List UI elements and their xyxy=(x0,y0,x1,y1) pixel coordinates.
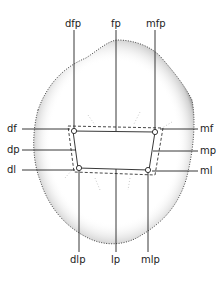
tooth-diagram xyxy=(0,0,224,285)
label-mf: mf xyxy=(200,124,213,134)
tooth-outline xyxy=(34,40,194,244)
label-lp: lp xyxy=(111,255,120,265)
label-dl: dl xyxy=(7,165,16,175)
label-mlp: mlp xyxy=(141,255,160,265)
label-df: df xyxy=(7,124,17,134)
label-ml: ml xyxy=(200,166,213,176)
label-dp: dp xyxy=(7,145,20,155)
label-mfp: mfp xyxy=(146,19,166,29)
label-dlp: dlp xyxy=(70,255,85,265)
label-mp: mp xyxy=(200,146,216,156)
label-dfp: dfp xyxy=(65,19,81,29)
label-fp: fp xyxy=(111,19,121,29)
